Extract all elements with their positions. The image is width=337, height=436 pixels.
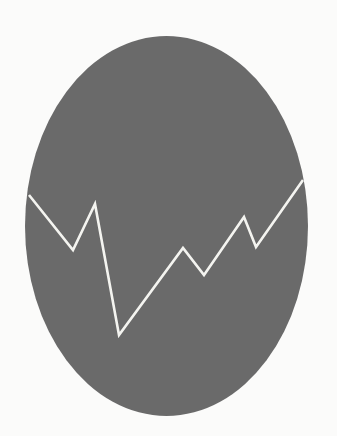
oval-background [25, 36, 308, 416]
trend-line-oval-icon [0, 0, 337, 436]
